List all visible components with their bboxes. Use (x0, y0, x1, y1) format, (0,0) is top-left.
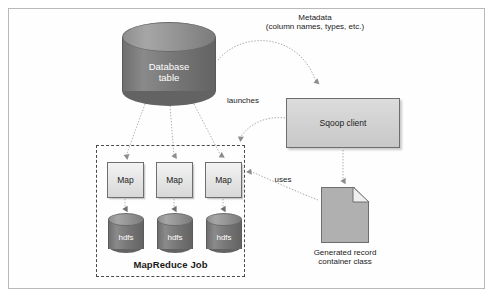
diagram-canvas: Database table MapReduce Job Map Map Map… (0, 0, 496, 302)
database-table-label: Database table (122, 62, 216, 83)
cylinder-top (122, 22, 216, 52)
generated-record-label: Generated record container class (296, 248, 394, 266)
document-fold-corner-icon (352, 186, 370, 204)
cylinder-top (206, 213, 242, 226)
map-task-box-1: Map (107, 162, 144, 198)
cylinder-top (108, 213, 144, 226)
launches-edge-label: launches (214, 96, 272, 105)
hdfs-node-2: hdfs (157, 213, 193, 255)
database-table-label-line1: Database (149, 61, 190, 72)
edge-launches (240, 118, 285, 138)
map-task-label-2: Map (166, 175, 183, 185)
metadata-edge-label-line1: Metadata (246, 13, 384, 22)
generated-record-label-line1: Generated record (314, 248, 377, 257)
map-task-box-2: Map (156, 162, 193, 198)
generated-record-label-line2: container class (318, 257, 371, 266)
uses-edge-label: uses (262, 175, 304, 184)
hdfs-label-1: hdfs (108, 234, 144, 243)
database-table-label-line2: table (159, 72, 180, 83)
sqoop-client-node: Sqoop client (286, 98, 400, 148)
map-task-label-3: Map (215, 175, 232, 185)
connector-layer (0, 0, 496, 302)
metadata-edge-label-line2: (column names, types, etc.) (246, 22, 384, 31)
database-table-node: Database table (122, 22, 216, 106)
sqoop-client-label: Sqoop client (320, 118, 367, 128)
metadata-edge-label: Metadata (column names, types, etc.) (246, 13, 384, 31)
hdfs-node-3: hdfs (206, 213, 242, 255)
hdfs-node-1: hdfs (108, 213, 144, 255)
hdfs-label-2: hdfs (157, 234, 193, 243)
edge-metadata (218, 41, 316, 82)
map-task-box-3: Map (205, 162, 242, 198)
mapreduce-job-label: MapReduce Job (96, 260, 245, 271)
hdfs-label-3: hdfs (206, 234, 242, 243)
map-task-label-1: Map (117, 175, 134, 185)
cylinder-top (157, 213, 193, 226)
